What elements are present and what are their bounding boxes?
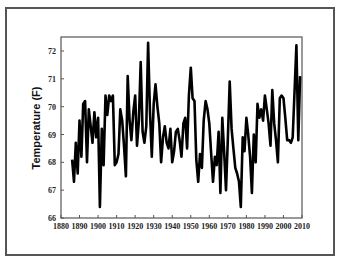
x-tick-label: 1880: [53, 222, 69, 231]
y-tick-label: 69: [48, 131, 56, 140]
temperature-series-line: [72, 43, 300, 207]
y-tick-label: 71: [48, 75, 56, 84]
x-tick-label: 1990: [257, 222, 273, 231]
x-tick-label: 1930: [146, 222, 162, 231]
y-tick-label: 70: [48, 103, 56, 112]
y-tick-label: 68: [48, 158, 56, 167]
x-tick-label: 1960: [201, 222, 217, 231]
x-tick-label: 1950: [183, 222, 199, 231]
y-tick-label: 72: [48, 47, 56, 56]
x-tick-label: 2000: [275, 222, 291, 231]
x-tick-label: 1920: [127, 222, 143, 231]
x-tick-label: 1940: [164, 222, 180, 231]
y-tick-label: 67: [48, 186, 56, 195]
temperature-line-chart: 66676869707172 1880189019001910192019301…: [0, 0, 344, 264]
x-tick-label: 1900: [90, 222, 106, 231]
y-axis-title: Temperature (F): [30, 86, 42, 169]
x-tick-label: 2010: [294, 222, 310, 231]
x-axis: 1880189019001910192019301940195019601970…: [53, 215, 310, 231]
x-tick-label: 1970: [220, 222, 236, 231]
x-tick-label: 1910: [109, 222, 125, 231]
x-tick-label: 1890: [72, 222, 88, 231]
x-tick-label: 1980: [238, 222, 254, 231]
